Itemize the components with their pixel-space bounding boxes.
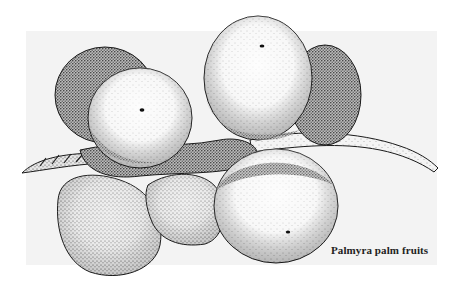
- fruit-bottom-left: [57, 175, 160, 275]
- figure-caption: Palmyra palm fruits: [331, 244, 428, 256]
- fruit-bottom-right: [214, 149, 338, 263]
- fruit-top-right: [204, 16, 312, 140]
- fruit-front-left: [88, 68, 192, 168]
